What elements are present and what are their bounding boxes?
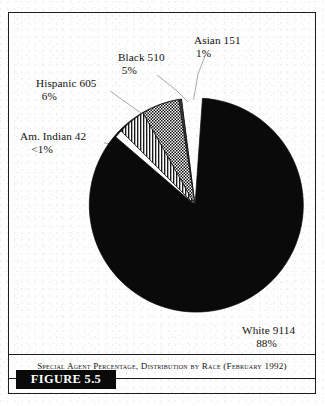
label-asian: Asian 151 1% [194,34,241,59]
label-white-name: White 9114 [242,324,295,336]
figure-number-tag: FIGURE 5.5 [16,370,116,389]
label-am-indian-percent: <1% [20,143,86,156]
label-asian-percent: 1% [194,47,241,60]
leader-line-black [157,75,188,102]
label-white-percent: 88% [242,337,295,350]
label-black-name: Black 510 [118,51,165,63]
label-hispanic: Hispanic 605 6% [36,77,97,102]
label-am-indian-name: Am. Indian 42 [20,130,86,142]
label-hispanic-percent: 6% [36,90,97,103]
label-black-percent: 5% [118,64,165,77]
label-white: White 9114 88% [242,324,295,349]
label-hispanic-name: Hispanic 605 [36,77,97,89]
label-asian-name: Asian 151 [194,34,241,46]
figure-number-label: FIGURE 5.5 [31,372,101,387]
label-black: Black 510 5% [118,51,165,76]
label-am-indian: Am. Indian 42 <1% [20,130,86,155]
leader-line-asian [194,56,206,100]
chart-plot-area: Asian 151 1% Black 510 5% Hispanic 605 6… [8,12,316,350]
